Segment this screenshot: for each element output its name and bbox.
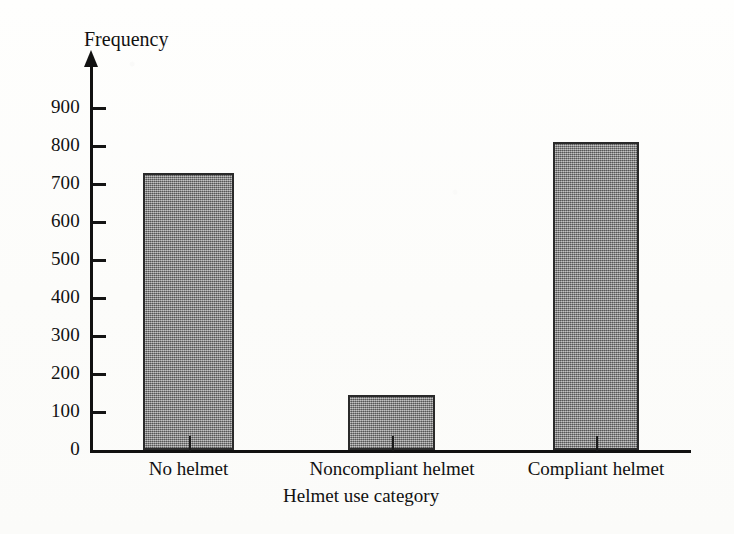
x-axis-tick-mark (596, 436, 598, 451)
y-axis-tick-mark (93, 335, 106, 338)
y-axis-tick-label: 200 (28, 363, 80, 382)
y-axis-tick-label-wrap: 600 (28, 211, 80, 230)
y-axis-tick-label-wrap: 400 (28, 287, 80, 306)
y-axis-tick-label-wrap: 200 (28, 363, 80, 382)
y-axis-tick-mark (93, 411, 106, 414)
x-axis-title: Helmet use category (283, 485, 439, 507)
y-axis-tick-label-wrap: 700 (28, 173, 80, 192)
y-axis-tick-mark (93, 297, 106, 300)
bar-chart-figure: Frequency 9008007006005004003002001000 N… (0, 0, 734, 534)
y-axis-tick-label: 400 (28, 287, 80, 306)
y-axis-tick-label: 900 (28, 97, 80, 116)
y-axis-tick-mark (93, 107, 106, 110)
y-axis-tick-label-wrap: 900 (28, 97, 80, 116)
x-axis-tick-mark (189, 436, 191, 451)
y-axis-tick-mark (93, 183, 106, 186)
y-axis-tick-mark (93, 259, 106, 262)
x-axis-category-label: No helmet (120, 458, 257, 480)
bar (143, 173, 234, 450)
y-axis-title: Frequency (84, 28, 168, 50)
y-axis-tick-label: 800 (28, 135, 80, 154)
y-axis-tick-label-wrap: 800 (28, 135, 80, 154)
y-axis-tick-label: 100 (28, 401, 80, 420)
y-axis-tick-mark (93, 145, 106, 148)
y-axis-tick-mark (93, 221, 106, 224)
y-axis-tick-label: 600 (28, 211, 80, 230)
y-axis-tick-label-wrap: 500 (28, 249, 80, 268)
y-axis-tick-label-wrap: 100 (28, 401, 80, 420)
x-axis-tick-mark (392, 436, 394, 451)
y-axis-tick-label: 700 (28, 173, 80, 192)
y-axis-tick-label: 0 (28, 439, 80, 458)
y-axis-tick-label: 500 (28, 249, 80, 268)
x-axis-category-label: Noncompliant helmet (294, 458, 490, 480)
x-axis-line (90, 450, 691, 453)
x-axis-category-label: Compliant helmet (500, 458, 692, 480)
y-axis-tick-label-wrap: 300 (28, 325, 80, 344)
y-axis-tick-label-wrap: 0 (28, 439, 80, 458)
y-axis-tick-label: 300 (28, 325, 80, 344)
y-axis-tick-mark (93, 373, 106, 376)
bar (553, 142, 639, 450)
y-axis-line (90, 64, 93, 452)
